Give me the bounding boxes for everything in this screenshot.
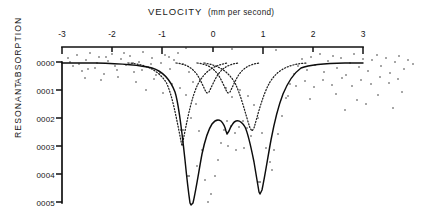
scatter-data-points bbox=[67, 47, 414, 203]
component-curve-inner-left bbox=[176, 63, 239, 93]
x-tick-label-4: 1 bbox=[261, 29, 266, 39]
y-axis-label-absorption: ABSORPTION bbox=[13, 17, 23, 84]
y-axis bbox=[56, 62, 62, 203]
y-tick-label-4: 0004 bbox=[36, 171, 55, 180]
x-tick-label-6: 3 bbox=[361, 29, 366, 39]
x-tick-label-1: -2 bbox=[108, 29, 116, 39]
chart-title-velocity: VELOCITY bbox=[148, 6, 202, 17]
y-tick-label-1: 0001 bbox=[36, 87, 55, 96]
moessbauer-spectrum-figure: VELOCITY (mm per second) -3 -2 -1 0 1 2 … bbox=[0, 0, 421, 221]
x-tick-label-0: -3 bbox=[58, 29, 66, 39]
y-tick-label-2: 0002 bbox=[36, 115, 55, 124]
y-tick-label-0: 0000 bbox=[36, 59, 55, 68]
component-curve-inner-right bbox=[197, 63, 260, 93]
x-tick-label-3: 0 bbox=[211, 29, 216, 39]
x-axis bbox=[62, 47, 363, 54]
x-tick-label-2: -1 bbox=[158, 29, 166, 39]
chart-title-units: (mm per second) bbox=[208, 8, 274, 17]
y-tick-label-5: 0005 bbox=[36, 199, 55, 208]
y-tick-label-3: 0003 bbox=[36, 143, 55, 152]
y-axis-label-resonant: RESONANT bbox=[13, 81, 23, 138]
x-tick-label-5: 2 bbox=[311, 29, 316, 39]
